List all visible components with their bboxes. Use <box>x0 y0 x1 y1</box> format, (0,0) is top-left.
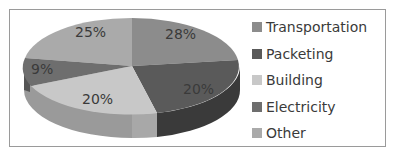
legend-swatch-icon <box>252 128 262 138</box>
legend-swatch-icon <box>252 22 262 32</box>
legend-swatch-icon <box>252 49 262 59</box>
legend-item-packeting: Packeting <box>252 41 367 68</box>
legend-item-other: Other <box>252 120 367 147</box>
legend-label: Other <box>266 125 306 141</box>
pie-side-building-2 <box>132 113 157 138</box>
legend-swatch-icon <box>252 75 262 85</box>
legend-item-electricity: Electricity <box>252 94 367 121</box>
label-transportation: 28% <box>165 26 196 42</box>
label-building: 20% <box>82 91 113 107</box>
legend-swatch-icon <box>252 102 262 112</box>
legend-label: Transportation <box>266 19 367 35</box>
legend-label: Building <box>266 72 323 88</box>
legend-label: Electricity <box>266 99 336 115</box>
label-electricity: 9% <box>31 61 53 77</box>
label-other: 25% <box>75 24 106 40</box>
label-packeting: 20% <box>183 81 214 97</box>
legend-item-building: Building <box>252 67 367 94</box>
legend-label: Packeting <box>266 46 333 62</box>
legend: Transportation Packeting Building Electr… <box>252 14 367 147</box>
legend-item-transportation: Transportation <box>252 14 367 41</box>
